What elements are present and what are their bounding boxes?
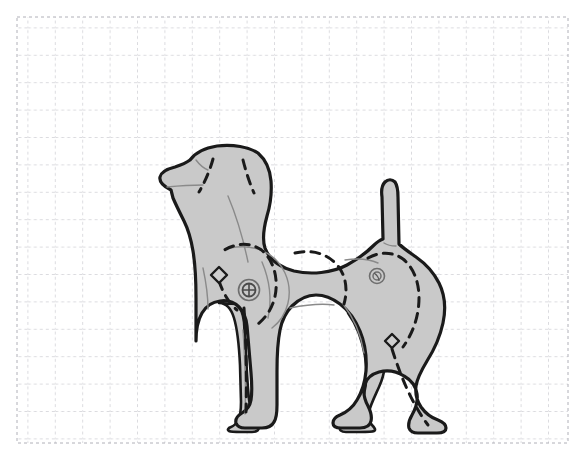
screenshot-canvas: [0, 0, 587, 469]
grid-fill: [17, 17, 568, 443]
dog-pattern-illustration: [0, 0, 587, 469]
shoulder-joint: [239, 280, 260, 301]
dashed-graph-grid: [17, 17, 568, 443]
